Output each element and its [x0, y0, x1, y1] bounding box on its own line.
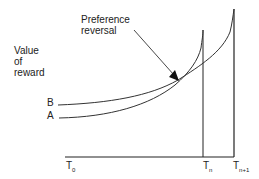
tick-t0: T0: [66, 160, 75, 176]
y-axis-label: Value of reward: [14, 45, 45, 78]
annotation-label: Preference reversal: [81, 14, 130, 36]
series-b-label: B: [47, 97, 54, 108]
tick-tn1: Tn+1: [233, 160, 249, 176]
annotation-arrow-line: [134, 30, 174, 75]
tick-tn: Tn: [203, 160, 212, 176]
series-a-label: A: [47, 110, 54, 121]
curve-a: [59, 30, 203, 118]
